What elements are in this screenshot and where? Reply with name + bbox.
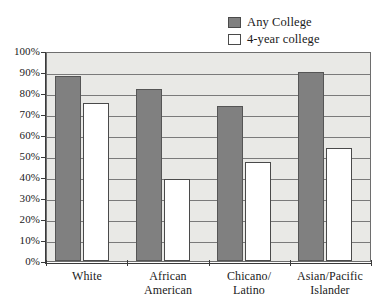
y-axis-tick-mark bbox=[41, 73, 46, 74]
y-axis-tick-mark bbox=[41, 241, 46, 242]
bar-any-college bbox=[298, 72, 324, 261]
y-axis-tick-mark bbox=[41, 94, 46, 95]
y-axis-tick-labels: 100%90%80%70%60%50%40%30%20%10%0% bbox=[0, 0, 40, 307]
y-axis-tick-mark bbox=[41, 115, 46, 116]
legend-label-four-year-college: 4-year college bbox=[247, 32, 320, 46]
x-axis-tick-mark bbox=[371, 260, 372, 266]
plot-area bbox=[46, 52, 371, 262]
y-axis-tick-label: 40% bbox=[2, 172, 40, 183]
x-axis-category-label: Asian/PacificIslander bbox=[275, 270, 382, 297]
y-axis-tick-mark bbox=[41, 157, 46, 158]
x-axis-category-label-line: Islander bbox=[275, 284, 382, 298]
legend-item-any-college: Any College bbox=[228, 14, 368, 30]
y-axis-tick-label: 50% bbox=[2, 151, 40, 162]
y-axis-tick-mark bbox=[41, 136, 46, 137]
x-axis-tick-mark bbox=[46, 260, 47, 266]
bar-any-college bbox=[136, 89, 162, 261]
x-axis-tick-mark bbox=[290, 260, 291, 266]
y-axis-tick-label: 0% bbox=[2, 256, 40, 267]
legend-swatch-four-year-college bbox=[228, 34, 241, 45]
y-axis-tick-label: 100% bbox=[2, 46, 40, 57]
chart-legend: Any College 4-year college bbox=[228, 14, 368, 48]
bar-four-year-college bbox=[326, 148, 352, 261]
bar-chart-figure: Any College 4-year college 100%90%80%70%… bbox=[0, 0, 382, 307]
y-axis-tick-label: 20% bbox=[2, 214, 40, 225]
bar-four-year-college bbox=[83, 103, 109, 261]
y-axis-tick-label: 60% bbox=[2, 130, 40, 141]
bar-any-college bbox=[217, 106, 243, 261]
legend-label-any-college: Any College bbox=[247, 15, 312, 29]
y-axis-tick-mark bbox=[41, 178, 46, 179]
y-axis-tick-mark bbox=[41, 220, 46, 221]
y-axis-tick-label: 10% bbox=[2, 235, 40, 246]
x-axis-category-label-line: Asian/Pacific bbox=[275, 270, 382, 284]
bar-four-year-college bbox=[164, 179, 190, 261]
y-axis-tick-label: 90% bbox=[2, 67, 40, 78]
y-axis-tick-mark bbox=[41, 52, 46, 53]
x-axis-tick-mark bbox=[209, 260, 210, 266]
legend-swatch-any-college bbox=[228, 17, 241, 28]
y-axis-tick-mark bbox=[41, 199, 46, 200]
y-axis-tick-label: 80% bbox=[2, 88, 40, 99]
legend-item-four-year-college: 4-year college bbox=[228, 31, 368, 47]
bar-any-college bbox=[55, 76, 81, 261]
y-axis-tick-label: 70% bbox=[2, 109, 40, 120]
bar-four-year-college bbox=[245, 162, 271, 261]
x-axis-tick-mark bbox=[127, 260, 128, 266]
y-axis-tick-label: 30% bbox=[2, 193, 40, 204]
